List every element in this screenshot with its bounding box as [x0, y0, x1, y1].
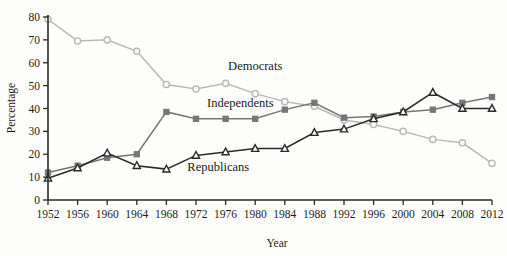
data-point-marker — [312, 100, 317, 105]
x-axis-title: Year — [266, 237, 287, 249]
data-point-marker — [134, 152, 139, 157]
y-tick-label: 60 — [29, 57, 41, 69]
y-axis-title: Percentage — [5, 83, 18, 133]
series-inline-labels: DemocratsIndependentsRepublicans — [187, 59, 282, 175]
series-democrats — [45, 16, 495, 166]
x-tick-label: 1980 — [244, 208, 267, 220]
data-point-marker — [430, 136, 436, 142]
y-tick-label: 20 — [29, 148, 41, 160]
data-point-marker — [311, 129, 318, 136]
data-point-marker — [164, 109, 169, 114]
data-point-marker — [104, 149, 111, 156]
data-point-marker — [281, 145, 288, 152]
data-point-marker — [488, 105, 495, 112]
data-point-marker — [104, 37, 110, 43]
x-tick-label: 1964 — [125, 208, 148, 220]
x-tick-label: 1984 — [273, 208, 296, 220]
data-point-marker — [163, 81, 169, 87]
data-point-marker — [193, 86, 199, 92]
data-point-marker — [430, 107, 435, 112]
data-point-marker — [489, 160, 495, 166]
x-tick-label: 2012 — [481, 208, 504, 220]
chart-canvas: 0102030405060708019521956196019641968197… — [0, 0, 507, 256]
data-point-marker — [133, 162, 140, 169]
data-point-marker — [192, 151, 199, 158]
data-point-marker — [222, 148, 229, 155]
data-point-marker — [400, 128, 406, 134]
data-point-marker — [282, 107, 287, 112]
x-tick-label: 2004 — [421, 208, 444, 220]
data-point-marker — [193, 116, 198, 121]
y-tick-label: 40 — [29, 103, 41, 115]
series-label-republicans: Republicans — [187, 160, 249, 174]
x-tick-label: 1972 — [185, 208, 208, 220]
data-point-marker — [341, 115, 346, 120]
data-point-marker — [371, 121, 377, 127]
x-tick-label: 1996 — [362, 208, 385, 220]
x-tick-label: 1960 — [96, 208, 119, 220]
x-tick-label: 1956 — [66, 208, 89, 220]
data-point-marker — [252, 145, 259, 152]
series-label-democrats: Democrats — [228, 59, 282, 73]
x-tick-label: 2008 — [451, 208, 474, 220]
data-point-marker — [489, 94, 494, 99]
data-point-marker — [134, 48, 140, 54]
series-label-independents: Independents — [207, 96, 274, 110]
y-tick-label: 50 — [29, 80, 41, 92]
x-tick-label: 2000 — [392, 208, 415, 220]
x-tick-label: 1976 — [214, 208, 237, 220]
y-tick-label: 70 — [29, 34, 41, 46]
x-tick-label: 1968 — [155, 208, 178, 220]
data-point-marker — [75, 38, 81, 44]
data-point-marker — [429, 89, 436, 96]
data-point-marker — [459, 140, 465, 146]
data-point-marker — [223, 116, 228, 121]
data-point-marker — [163, 165, 170, 172]
data-point-marker — [340, 125, 347, 132]
x-tick-label: 1988 — [303, 208, 326, 220]
series-line-democrats — [48, 19, 492, 163]
y-tick-label: 10 — [29, 171, 41, 183]
data-point-marker — [282, 99, 288, 105]
x-tick-label: 1992 — [333, 208, 356, 220]
party-affiliation-line-chart: 0102030405060708019521956196019641968197… — [0, 0, 507, 256]
x-tick-label: 1952 — [37, 208, 60, 220]
y-tick-label: 0 — [34, 194, 40, 206]
y-tick-label: 30 — [29, 125, 41, 137]
data-point-marker — [253, 116, 258, 121]
y-tick-label: 80 — [29, 11, 41, 23]
data-point-marker — [223, 80, 229, 86]
